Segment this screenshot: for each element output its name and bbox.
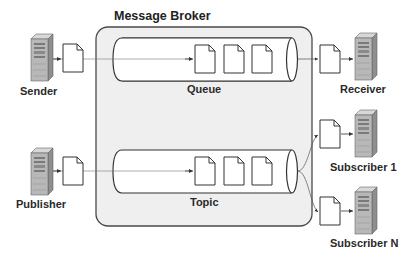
publisher-server-icon — [31, 148, 53, 195]
publisher-message-document-icon — [63, 157, 83, 185]
diagram-canvas — [0, 0, 408, 259]
queue-message-3-document-icon — [252, 45, 272, 73]
queue-label: Queue — [187, 83, 221, 95]
receiver-message-document-icon — [320, 45, 340, 73]
subscriber-n-message-document-icon — [320, 197, 340, 225]
queue-message-2-document-icon — [224, 45, 244, 73]
receiver-server-icon — [355, 33, 377, 80]
topic-message-3-document-icon — [252, 157, 272, 185]
subscriber-1-label: Subscriber 1 — [330, 161, 397, 173]
queue-message-1-document-icon — [195, 45, 215, 73]
sender-label: Sender — [20, 85, 57, 97]
publisher-label: Publisher — [16, 198, 66, 210]
topic-message-2-document-icon — [224, 157, 244, 185]
subscriber-n-server-icon — [355, 187, 377, 234]
sender-message-document-icon — [63, 44, 83, 72]
subscriber-1-message-document-icon — [320, 120, 340, 148]
topic-message-1-document-icon — [195, 157, 215, 185]
sender-server-icon — [31, 34, 53, 81]
topic-label: Topic — [190, 196, 219, 208]
subscriber-1-server-icon — [355, 110, 377, 157]
receiver-label: Receiver — [340, 83, 386, 95]
subscriber-n-label: Subscriber N — [330, 237, 398, 249]
broker-title: Message Broker — [114, 9, 211, 23]
